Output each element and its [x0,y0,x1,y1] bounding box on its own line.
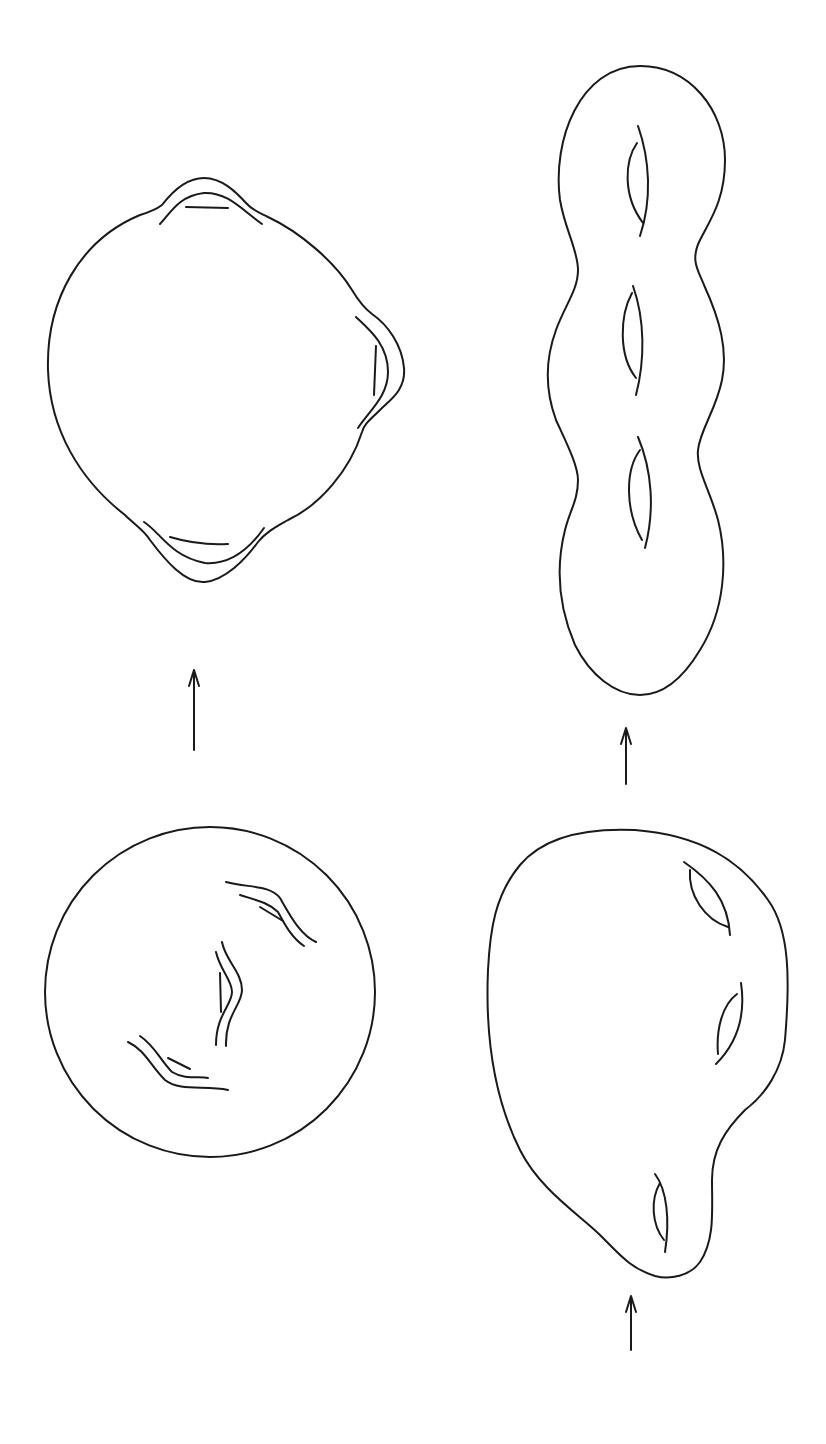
chain-surface-outline [548,66,725,695]
diagram-canvas [0,0,826,1444]
sphere-with-bumps-outline [48,178,404,582]
hole-2-upper-lip [623,293,636,378]
top-bump-fold-line [186,207,228,208]
hole-3-lower-lip [638,437,651,548]
right-bump-inner-arc [356,317,388,428]
sphere-outline-circle [45,827,375,1157]
tube-3-inner [140,1036,208,1078]
tube-1-outer [226,882,316,942]
hole-1-upper-lip [628,143,643,223]
tube-3-fold [168,1058,190,1069]
hole-1-upper-lip [690,870,728,927]
hole-3-upper-lip [629,450,642,540]
hole-2-upper-lip [718,994,737,1054]
arrow-up-left [189,670,199,750]
tube-3-outer [128,1042,228,1090]
hole-2-lower-lip [633,286,642,395]
lumpy-surface-outline [487,830,787,1278]
sphere-with-bumps-figure [48,178,404,582]
sphere-with-tubes-figure [45,827,375,1157]
hole-1-lower-lip [684,862,730,935]
tube-2-inner [216,952,232,1045]
right-bump-fold-line [374,346,376,395]
hole-3-lower-lip [655,1174,667,1252]
arrow-up-bottom [626,1296,636,1350]
arrow-up-right [621,728,631,784]
genus-three-chain-figure [548,66,725,695]
bottom-bump-fold-line [170,537,228,544]
tube-2-fold [220,973,221,1012]
lumpy-surface-figure [487,830,787,1278]
